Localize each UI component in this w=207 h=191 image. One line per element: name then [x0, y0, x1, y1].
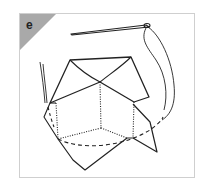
thread [148, 27, 174, 120]
top-piece [50, 57, 149, 103]
needle-icon [71, 24, 150, 36]
bottom-piece [58, 104, 157, 170]
sewing-illustration [0, 0, 207, 191]
